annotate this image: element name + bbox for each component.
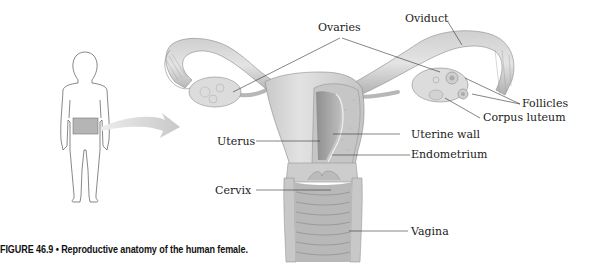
leader-lines bbox=[233, 22, 520, 231]
label-uterus: Uterus bbox=[217, 136, 255, 147]
label-corpus-luteum: Corpus luteum bbox=[483, 112, 566, 123]
label-vagina: Vagina bbox=[411, 226, 449, 237]
vagina-wall bbox=[284, 178, 296, 262]
zoom-arrow bbox=[101, 113, 180, 138]
label-cervix: Cervix bbox=[215, 185, 251, 196]
figure-root: Ovaries Oviduct Follicles Corpus luteum … bbox=[0, 0, 595, 265]
label-oviduct: Oviduct bbox=[405, 13, 448, 24]
corpus-luteum bbox=[429, 90, 443, 100]
anatomy-illustration bbox=[0, 0, 595, 265]
label-endometrium: Endometrium bbox=[411, 149, 487, 160]
highlight-box bbox=[73, 118, 98, 134]
label-follicles: Follicles bbox=[522, 98, 568, 109]
figure-caption: FIGURE 46.9 • Reproductive anatomy of th… bbox=[0, 243, 248, 255]
label-ovaries: Ovaries bbox=[318, 22, 361, 33]
label-uterine-wall: Uterine wall bbox=[411, 129, 480, 140]
